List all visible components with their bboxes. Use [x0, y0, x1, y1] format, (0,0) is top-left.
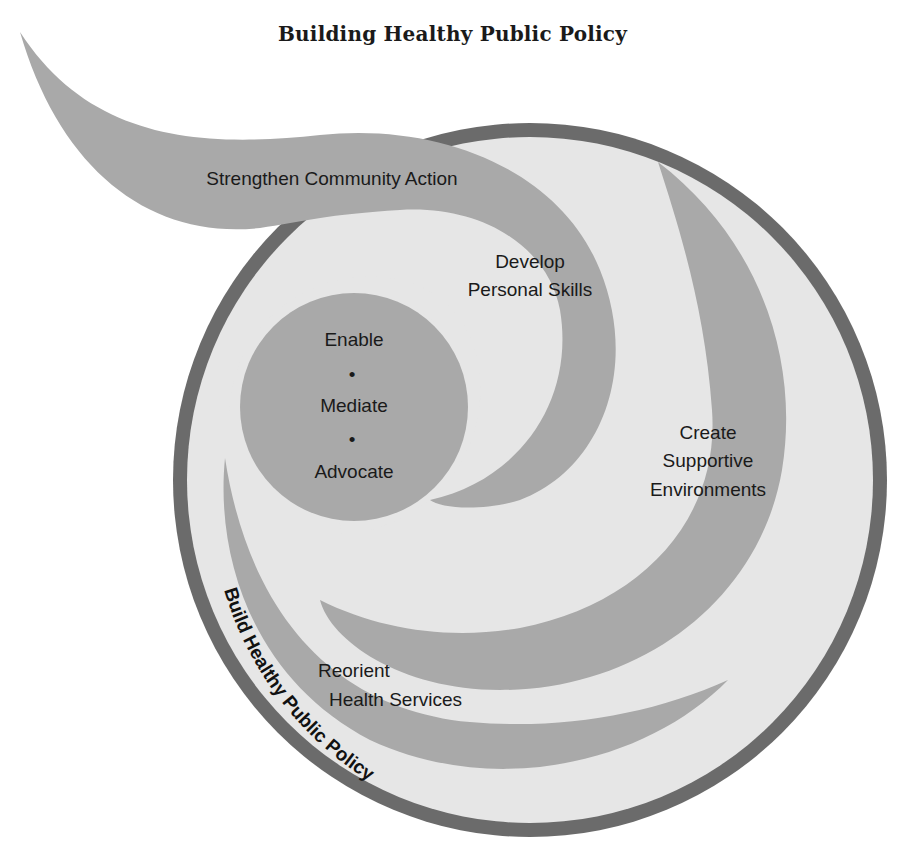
label-create-line2: Supportive: [663, 450, 754, 471]
label-mediate: Mediate: [320, 395, 388, 416]
label-enable: Enable: [324, 329, 383, 350]
bullet-1: •: [349, 364, 356, 385]
label-reorient-line2: Health Services: [329, 689, 462, 710]
health-promotion-diagram: Strengthen Community Action Develop Pers…: [0, 0, 905, 857]
label-develop-line2: Personal Skills: [468, 279, 593, 300]
label-strengthen-community-action: Strengthen Community Action: [206, 168, 457, 189]
label-create-line1: Create: [679, 422, 736, 443]
label-create-line3: Environments: [650, 479, 766, 500]
label-advocate: Advocate: [314, 461, 393, 482]
bullet-2: •: [349, 429, 356, 450]
label-develop-line1: Develop: [495, 251, 565, 272]
label-reorient-line1: Reorient: [318, 660, 391, 681]
